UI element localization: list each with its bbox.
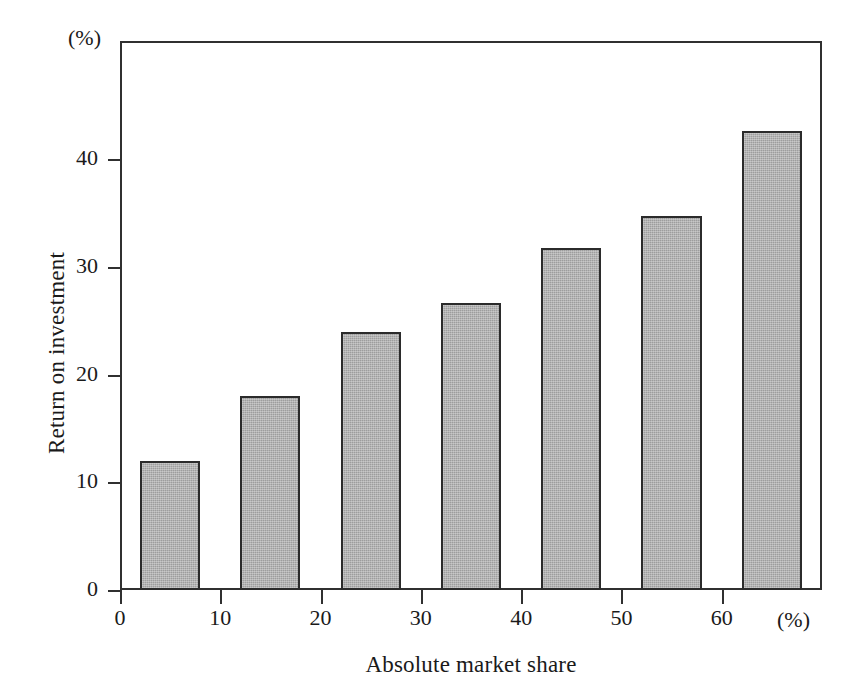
bar [742, 131, 802, 590]
bar [641, 216, 701, 590]
y-axis-tick [108, 375, 121, 377]
y-axis-tick [108, 159, 121, 161]
x-axis-title: Absolute market share [120, 652, 822, 678]
x-axis-tick-label: 50 [591, 607, 651, 629]
y-axis-tick-label: 40 [38, 147, 98, 169]
bar [441, 303, 501, 590]
y-axis-tick [108, 267, 121, 269]
x-axis-tick-label: 0 [90, 607, 150, 629]
x-axis-tick [521, 590, 523, 604]
x-axis-tick [220, 590, 222, 604]
x-axis-tick-label: 60 [692, 607, 752, 629]
x-axis-tick-label: 20 [291, 607, 351, 629]
x-axis-tick [421, 590, 423, 604]
x-axis-unit-label: (%) [777, 607, 810, 633]
y-axis-tick-label: 0 [38, 578, 98, 600]
x-axis-tick [120, 590, 122, 604]
y-axis-tick-label: 20 [38, 363, 98, 385]
bar [341, 332, 401, 590]
bar [541, 248, 601, 590]
x-axis-tick [321, 590, 323, 604]
y-axis-title: Return on investment [44, 153, 70, 553]
bar-chart-figure: (%) Return on investment 010203040 01020… [0, 0, 859, 698]
y-axis-tick-label: 30 [38, 255, 98, 277]
bar [140, 461, 200, 590]
x-axis-tick-label: 40 [491, 607, 551, 629]
bar [240, 396, 300, 590]
y-axis-unit-label: (%) [68, 25, 101, 51]
x-axis-tick [621, 590, 623, 604]
y-axis-tick-label: 10 [38, 470, 98, 492]
bars-layer [120, 41, 822, 590]
y-axis-tick [108, 482, 121, 484]
x-axis-tick-label: 30 [391, 607, 451, 629]
x-axis-tick [722, 590, 724, 604]
x-axis-tick-label: 10 [190, 607, 250, 629]
